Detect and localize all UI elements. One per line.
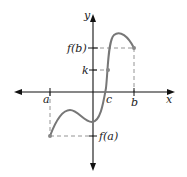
ivt-diagram: y x a c b f(b) k f(a) <box>0 0 187 177</box>
function-curve <box>50 33 134 136</box>
label-fa: f(a) <box>98 130 118 143</box>
x-axis-left-arrow-icon <box>14 89 22 95</box>
label-k: k <box>82 64 89 77</box>
label-fb: f(b) <box>66 42 87 55</box>
axes <box>18 18 172 168</box>
y-axis-label: y <box>83 9 91 22</box>
x-axis-label: x <box>166 93 173 106</box>
point-b-fb <box>132 46 136 50</box>
label-c: c <box>106 93 112 106</box>
label-b: b <box>131 96 138 109</box>
point-a-fa <box>48 134 52 138</box>
y-axis-down-arrow-icon <box>90 163 96 171</box>
label-a: a <box>43 93 50 106</box>
point-c-k <box>106 68 110 72</box>
diagram-canvas: y x a c b f(b) k f(a) <box>0 0 187 177</box>
y-axis-up-arrow-icon <box>90 14 96 22</box>
